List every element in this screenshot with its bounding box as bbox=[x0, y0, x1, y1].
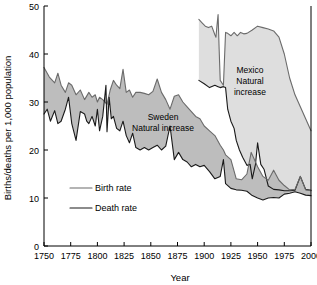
x-tick-label: 1850 bbox=[141, 251, 161, 261]
y-axis-tick-labels: 01020304050 bbox=[29, 2, 39, 252]
x-axis-ticks bbox=[44, 242, 311, 246]
y-tick-label: 50 bbox=[29, 2, 39, 12]
chart-legend: Birth rate Death rate bbox=[70, 183, 137, 213]
mexico-annotation-line2: Natural bbox=[236, 76, 264, 86]
x-tick-label: 1975 bbox=[274, 251, 294, 261]
x-tick-label: 1925 bbox=[221, 251, 241, 261]
x-tick-label: 1800 bbox=[87, 251, 107, 261]
y-tick-label: 40 bbox=[29, 50, 39, 60]
y-tick-label: 10 bbox=[29, 194, 39, 204]
y-axis-ticks bbox=[44, 6, 48, 246]
y-tick-label: 0 bbox=[34, 242, 39, 252]
annotation-mexico: Mexico Natural increase bbox=[234, 65, 266, 97]
sweden-annotation-line1: Sweden bbox=[148, 112, 179, 122]
plot-fills bbox=[44, 15, 311, 200]
x-tick-label: 1775 bbox=[61, 251, 81, 261]
x-axis-tick-labels: 1750177518001825185018751900192519501975… bbox=[34, 251, 317, 261]
chart-figure: 01020304050 1750177518001825185018751900… bbox=[0, 0, 317, 285]
x-tick-label: 1750 bbox=[34, 251, 54, 261]
y-tick-label: 20 bbox=[29, 146, 39, 156]
mexico-annotation-line1: Mexico bbox=[237, 65, 264, 75]
death-rate-legend-label: Death rate bbox=[95, 203, 137, 213]
x-tick-label: 1825 bbox=[114, 251, 134, 261]
x-tick-label: 1950 bbox=[248, 251, 268, 261]
y-tick-label: 30 bbox=[29, 98, 39, 108]
births-deaths-line-chart: 01020304050 1750177518001825185018751900… bbox=[0, 0, 317, 285]
mexico-annotation-line3: increase bbox=[234, 87, 266, 97]
x-tick-label: 1875 bbox=[167, 251, 187, 261]
x-axis-title: Year bbox=[170, 272, 189, 283]
x-tick-label: 1900 bbox=[194, 251, 214, 261]
sweden-annotation-line2: Natural increase bbox=[132, 123, 194, 133]
x-tick-label: 2000 bbox=[301, 251, 317, 261]
birth-rate-legend-label: Birth rate bbox=[95, 183, 132, 193]
y-axis-title: Births/deaths per 1,000 population bbox=[2, 56, 13, 201]
